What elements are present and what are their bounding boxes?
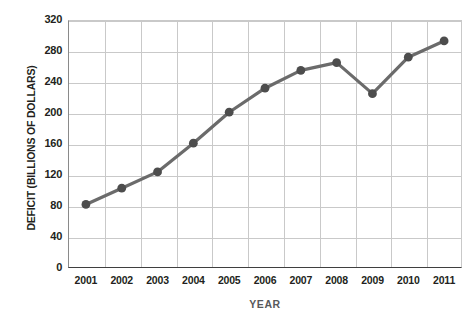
gridline-vertical — [212, 21, 213, 267]
gridline-horizontal — [69, 207, 461, 208]
gridline-horizontal — [69, 83, 461, 84]
gridline-vertical — [177, 21, 178, 267]
y-axis-tick-label: 40 — [16, 230, 62, 242]
y-axis-tick-label: 240 — [16, 75, 62, 87]
gridline-vertical — [105, 21, 106, 267]
y-axis-tick-label: 160 — [16, 137, 62, 149]
plot-area — [68, 20, 462, 268]
y-axis-tick-label: 280 — [16, 44, 62, 56]
x-axis-tick-label: 2011 — [422, 274, 466, 286]
gridline-horizontal — [69, 176, 461, 177]
line-chart: DEFICIT (BILLIONS OF DOLLARS) YEAR 04080… — [0, 0, 475, 323]
gridline-vertical — [356, 21, 357, 267]
gridline-horizontal — [69, 238, 461, 239]
gridline-vertical — [391, 21, 392, 267]
gridline-vertical — [427, 21, 428, 267]
y-axis-tick-label: 80 — [16, 199, 62, 211]
x-axis-title: YEAR — [68, 298, 462, 310]
gridline-vertical — [284, 21, 285, 267]
y-axis-tick-label: 200 — [16, 106, 62, 118]
y-axis-tick-label: 320 — [16, 13, 62, 25]
gridline-vertical — [141, 21, 142, 267]
y-axis-tick-label: 0 — [16, 261, 62, 273]
gridline-vertical — [248, 21, 249, 267]
gridline-horizontal — [69, 52, 461, 53]
gridline-vertical — [320, 21, 321, 267]
gridline-horizontal — [69, 21, 461, 22]
gridline-horizontal — [69, 114, 461, 115]
gridline-horizontal — [69, 145, 461, 146]
y-axis-tick-label: 120 — [16, 168, 62, 180]
